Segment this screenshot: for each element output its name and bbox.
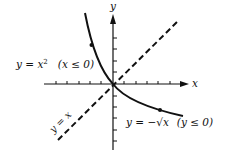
inverse-function-diagram: y x y = x2(x ≤ 0) y = −√x(y ≤ 0) y = x <box>0 0 228 154</box>
parabola-label: y = x2(x ≤ 0) <box>16 59 94 70</box>
y-axis-label: y <box>110 1 116 12</box>
parabola-equation: y = x <box>16 58 43 70</box>
parabola-point <box>90 43 94 47</box>
neg-root-label: y = −√x(y ≤ 0) <box>126 117 213 128</box>
x-axis <box>44 81 189 87</box>
x-axis-label: x <box>192 78 198 89</box>
parabola-condition: (x ≤ 0) <box>58 58 94 70</box>
neg-root-curve <box>113 84 183 116</box>
x-axis-arrow-icon <box>180 81 189 87</box>
parabola-exponent: 2 <box>43 58 47 66</box>
neg-root-equation: y = −√x <box>126 116 169 128</box>
neg-root-point <box>158 108 162 112</box>
neg-root-condition: (y ≤ 0) <box>177 116 213 128</box>
y-axis-arrow-icon <box>110 14 116 24</box>
parabola-curve <box>85 13 113 84</box>
